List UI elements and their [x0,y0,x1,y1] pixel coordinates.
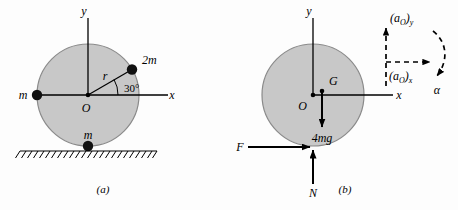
origin-label-a: O [82,101,91,115]
accel-x-base: (a [389,69,399,83]
friction-force-label: F [235,140,244,154]
accel-y-label: (aO)y [390,11,414,27]
y-axis-label-a: y [80,4,87,18]
figure-canvas: y x O r 30° 2m m m (a) [0,0,458,210]
x-axis-label-a: x [168,88,175,102]
radius-label-a: r [103,69,108,83]
mass-m-bottom-label: m [84,128,93,142]
center-of-mass-label: G [329,74,338,88]
physics-figure: y x O r 30° 2m m m (a) [0,0,458,210]
angular-accel-arc [433,31,445,76]
angle-label-a: 30° [124,82,139,94]
mass-m-left-dot [32,90,42,100]
mass-m-bottom-dot [83,141,93,151]
ground-hatching-a [16,151,158,158]
panel-a: y x O r 30° 2m m m (a) [16,4,176,196]
normal-force-label: N [308,186,318,200]
accel-x-component: x [408,76,413,85]
panel-b: y x O G 4mg F N (aO)y (aO)x α (b) [235,4,445,200]
mass-2m-label: 2m [142,53,157,67]
origin-dot-b [311,93,316,98]
accel-y-component: y [409,18,414,27]
mass-2m-dot [127,64,137,74]
mass-m-left-label: m [19,88,28,102]
angular-accel-label: α [434,83,441,97]
x-axis-label-b: x [395,88,402,102]
origin-dot-a [86,93,91,98]
accel-x-label: (aO)x [389,69,413,85]
weight-label: 4mg [312,131,333,145]
origin-label-b: O [298,99,307,113]
y-axis-label-b: y [305,4,312,18]
accel-y-base: (a [390,11,400,25]
caption-b: (b) [339,183,352,196]
caption-a: (a) [97,183,110,196]
